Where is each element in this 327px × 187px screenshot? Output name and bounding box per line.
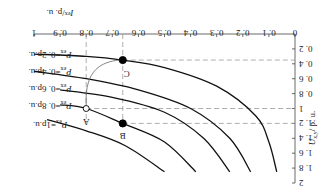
x-tick-label: 0. 1 xyxy=(262,28,276,38)
x-tick-label: 0. 5 xyxy=(157,28,171,38)
point-label-a: A xyxy=(82,117,89,127)
transition-arc xyxy=(86,60,119,105)
series-label: Pex=0. 2p.u. xyxy=(28,49,72,60)
y-axis-title: Ux,y/ p. u. xyxy=(307,111,318,146)
series-label: Pex=0. 6p.u. xyxy=(28,83,72,94)
curve-series xyxy=(60,105,196,172)
x-tick-label: 0. 6 xyxy=(131,28,145,38)
point-b xyxy=(119,120,126,127)
y-tick-label: 1. 6 xyxy=(299,148,313,158)
y-tick-label: 1 xyxy=(299,104,304,114)
series-label: Pex=0. 8p.u. xyxy=(28,100,72,111)
point-label-b: B xyxy=(120,131,126,141)
y-tick-label: 0. 4 xyxy=(299,59,313,69)
point-label-c: C xyxy=(124,69,130,79)
point-c xyxy=(119,56,126,63)
plot-area: 00. 10. 20. 30. 40. 50. 60. 70. 80. 910.… xyxy=(28,8,318,187)
x-tick-label: 0. 7 xyxy=(105,28,119,38)
chart: 00. 10. 20. 30. 40. 50. 60. 70. 80. 910.… xyxy=(0,0,327,187)
x-tick-label: 0. 2 xyxy=(236,28,250,38)
y-tick-label: 0. 8 xyxy=(299,89,313,99)
series-label: Pex=1p.u. xyxy=(33,119,68,130)
x-tick-label: 1 xyxy=(32,28,37,38)
y-tick-label: 1. 8 xyxy=(299,163,313,173)
point-a xyxy=(83,106,89,112)
x-tick-label: 0. 4 xyxy=(183,28,197,38)
x-tick-label: 0. 9 xyxy=(53,28,67,38)
y-tick-label: 0. 2 xyxy=(299,44,313,54)
y-tick-label: 2 xyxy=(299,178,304,187)
x-axis-title: Iex/p. u. xyxy=(47,8,75,18)
x-tick-label: 0. 3 xyxy=(209,28,223,38)
y-tick-label: 0. 6 xyxy=(299,74,313,84)
x-tick-label: 0 xyxy=(292,28,297,38)
